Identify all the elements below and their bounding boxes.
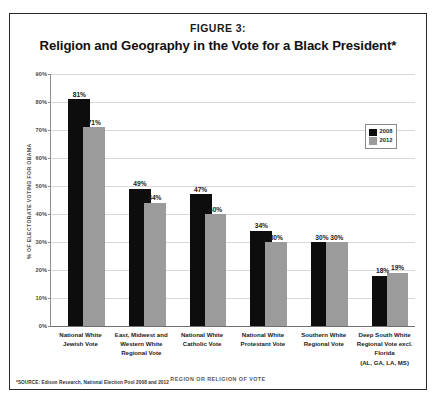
x-category-label-line: Deep South White (354, 330, 415, 339)
bar-value-label: 44% (148, 194, 161, 201)
plot-inner: 90%80%70%60%50%40%30%20%10%0% 81%71%49%4… (50, 74, 415, 327)
y-tick-label: 90% (36, 71, 48, 77)
x-category-label-line: National White (50, 330, 111, 339)
bar-2012[interactable]: 40% (205, 214, 227, 326)
x-category-label: National WhiteJewish Vote (50, 330, 111, 348)
x-category-label-line: Southern White (293, 330, 354, 339)
bar-2012[interactable]: 30% (265, 242, 287, 326)
y-tick-label: 50% (36, 183, 48, 189)
figure-frame: FIGURE 3: Religion and Geography in the … (9, 13, 427, 390)
x-category-label-line: East, Midwest and (111, 330, 172, 339)
x-category-label-line: National White (233, 330, 294, 339)
bar-value-label: 40% (209, 206, 222, 213)
x-category-label: Deep South WhiteRegional Vote excl.Flori… (354, 330, 415, 367)
y-tick-label: 0% (39, 323, 47, 329)
y-tick-label: 40% (36, 211, 48, 217)
legend-label-2008: 2008 (380, 129, 393, 135)
bar-2012[interactable]: 44% (144, 203, 166, 326)
bar-value-label: 47% (194, 186, 207, 193)
bar-value-label: 30% (330, 234, 343, 241)
figure-title: Religion and Geography in the Vote for a… (10, 38, 426, 53)
chart-legend: 2008 2012 (365, 124, 397, 149)
y-tick-label: 20% (36, 267, 48, 273)
y-tick-mark (48, 326, 51, 327)
bar-group: 81%71% (51, 74, 112, 326)
bar-2012[interactable]: 19% (387, 273, 409, 326)
legend-item-2012: 2012 (369, 137, 392, 145)
x-category-label-line: Catholic Vote (172, 339, 233, 348)
x-axis-category-labels: National WhiteJewish VoteEast, Midwest a… (50, 330, 415, 382)
x-category-label-line: Jewish Vote (50, 339, 111, 348)
x-category-label: National WhiteProtestant Vote (233, 330, 294, 348)
y-tick-label: 80% (36, 99, 48, 105)
plot-area: 90%80%70%60%50%40%30%20%10%0% 81%71%49%4… (50, 74, 415, 327)
bar-value-label: 81% (73, 91, 86, 98)
legend-label-2012: 2012 (380, 138, 393, 144)
x-category-label-line: Regional Vote (111, 348, 172, 357)
y-tick-label: 10% (36, 295, 48, 301)
bar-value-label: 19% (391, 264, 404, 271)
x-category-label-line: Florida (354, 348, 415, 357)
x-category-label-line: Regional Vote excl. (354, 339, 415, 348)
y-tick-label: 70% (36, 127, 48, 133)
y-tick-label: 60% (36, 155, 48, 161)
x-category-label-line: Protestant Vote (233, 339, 294, 348)
bar-group: 34%30% (233, 74, 294, 326)
bar-group: 18%19% (354, 74, 415, 326)
bar-value-label: 30% (270, 234, 283, 241)
bar-group: 30%30% (294, 74, 355, 326)
x-category-label-line: Regional Vote (293, 339, 354, 348)
source-note: *SOURCE: Edison Research, National Elect… (16, 380, 169, 385)
bar-value-label: 34% (255, 222, 268, 229)
y-tick-label: 30% (36, 239, 48, 245)
x-category-label-line: Western White (111, 339, 172, 348)
bar-value-label: 49% (133, 180, 146, 187)
legend-swatch-icon-2012 (369, 137, 377, 145)
bar-group: 47%40% (172, 74, 233, 326)
bar-2012[interactable]: 30% (326, 242, 348, 326)
bar-group: 49%44% (112, 74, 173, 326)
x-category-label: National WhiteCatholic Vote (172, 330, 233, 348)
legend-item-2008: 2008 (369, 129, 392, 137)
bar-value-label: 30% (315, 234, 328, 241)
x-category-label-line: National White (172, 330, 233, 339)
y-axis-title-text: % OF ELECTORATE VOTING FOR OBAMA (26, 143, 32, 258)
x-category-label: East, Midwest andWestern WhiteRegional V… (111, 330, 172, 358)
x-category-label: Southern WhiteRegional Vote (293, 330, 354, 348)
figure-label: FIGURE 3: (10, 22, 426, 34)
x-category-label-line: (AL, GA, LA, MS) (354, 358, 415, 367)
bar-2012[interactable]: 71% (83, 127, 105, 326)
bar-value-label: 71% (88, 119, 101, 126)
legend-swatch-icon-2008 (369, 129, 377, 137)
y-axis-title: % OF ELECTORATE VOTING FOR OBAMA (24, 74, 34, 327)
